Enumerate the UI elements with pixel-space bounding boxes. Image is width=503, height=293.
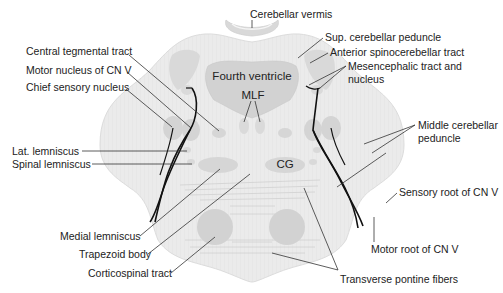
label-central-tegmental-tract: Central tegmental tract	[26, 45, 132, 57]
corticospinal-tract-left	[197, 209, 233, 245]
label-middle-cerebellar-peduncle-line2: peduncle	[418, 132, 461, 144]
chief-sensory-nucleus-shape	[163, 116, 183, 140]
central-tegmental-tract-shape	[212, 128, 226, 138]
label-sensory-root-cn-v: Sensory root of CN V	[399, 186, 498, 198]
label-lat-lemniscus: Lat. lemniscus	[12, 145, 79, 157]
label-medial-lemniscus: Medial lemniscus	[60, 230, 141, 242]
label-cerebellar-vermis: Cerebellar vermis	[250, 8, 332, 20]
label-motor-root-cn-v: Motor root of CN V	[371, 243, 459, 255]
label-trapezoid-body: Trapezoid body	[79, 248, 152, 260]
label-mesencephalic-tract-line2: nucleus	[348, 73, 384, 85]
mlf-left	[239, 118, 249, 134]
label-sup-cerebellar-peduncle: Sup. cerebellar peduncle	[325, 31, 441, 43]
corticospinal-tract-right	[269, 209, 305, 245]
label-chief-sensory-nucleus: Chief sensory nucleus	[26, 81, 129, 93]
pons-cross-section-diagram: Fourth ventricle MLF CG Central tegmenta…	[0, 0, 503, 293]
cg-label: CG	[276, 158, 293, 170]
label-corticospinal-tract: Corticospinal tract	[88, 267, 172, 279]
label-transverse-pontine-fibers: Transverse pontine fibers	[340, 273, 458, 285]
label-anterior-spinocerebellar-tract: Anterior spinocerebellar tract	[330, 46, 464, 58]
fourth-ventricle-label: Fourth ventricle	[212, 70, 291, 82]
label-middle-cerebellar-peduncle-line1: Middle cerebellar	[418, 119, 498, 131]
label-motor-nucleus-cn-v: Motor nucleus of CN V	[26, 64, 132, 76]
mlf-label: MLF	[242, 89, 265, 101]
central-tegmental-tract-right	[278, 128, 292, 138]
label-mesencephalic-tract-line1: Mesencephalic tract and	[348, 60, 462, 72]
label-spinal-lemniscus: Spinal lemniscus	[12, 158, 91, 170]
